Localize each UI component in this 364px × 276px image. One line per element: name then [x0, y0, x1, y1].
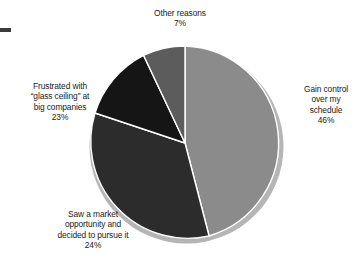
pie-chart-figure: Other reasons 7% Gain control over my sc… — [0, 0, 364, 276]
pie-label-glass-ceiling-line-1: Frustrated with — [6, 81, 114, 91]
pie-label-glass-ceiling: Frustrated with “glass ceiling” at big c… — [6, 81, 114, 123]
pie-label-market-opportunity: Saw a market opportunity and decided to … — [28, 209, 158, 251]
pie-label-market-opportunity-value: 24% — [28, 240, 158, 250]
pie-label-glass-ceiling-line-3: big companies — [6, 102, 114, 112]
pie-label-market-opportunity-line-1: Saw a market — [28, 209, 158, 219]
pie-label-other-reasons-line-1: Other reasons — [128, 8, 232, 18]
pie-label-gain-control-value: 46% — [292, 115, 360, 125]
pie-label-market-opportunity-line-3: decided to pursue it — [28, 230, 158, 240]
pie-label-other-reasons-value: 7% — [128, 18, 232, 28]
pie-label-glass-ceiling-line-2: “glass ceiling” at — [6, 91, 114, 101]
pie-label-gain-control-line-3: schedule — [292, 105, 360, 115]
pie-label-other-reasons: Other reasons 7% — [128, 8, 232, 29]
pie-label-gain-control-line-2: over my — [292, 94, 360, 104]
pie-label-gain-control-line-1: Gain control — [292, 84, 360, 94]
pie-label-market-opportunity-line-2: opportunity and — [28, 219, 158, 229]
pie-label-gain-control: Gain control over my schedule 46% — [292, 84, 360, 126]
pie-label-glass-ceiling-value: 23% — [6, 112, 114, 122]
